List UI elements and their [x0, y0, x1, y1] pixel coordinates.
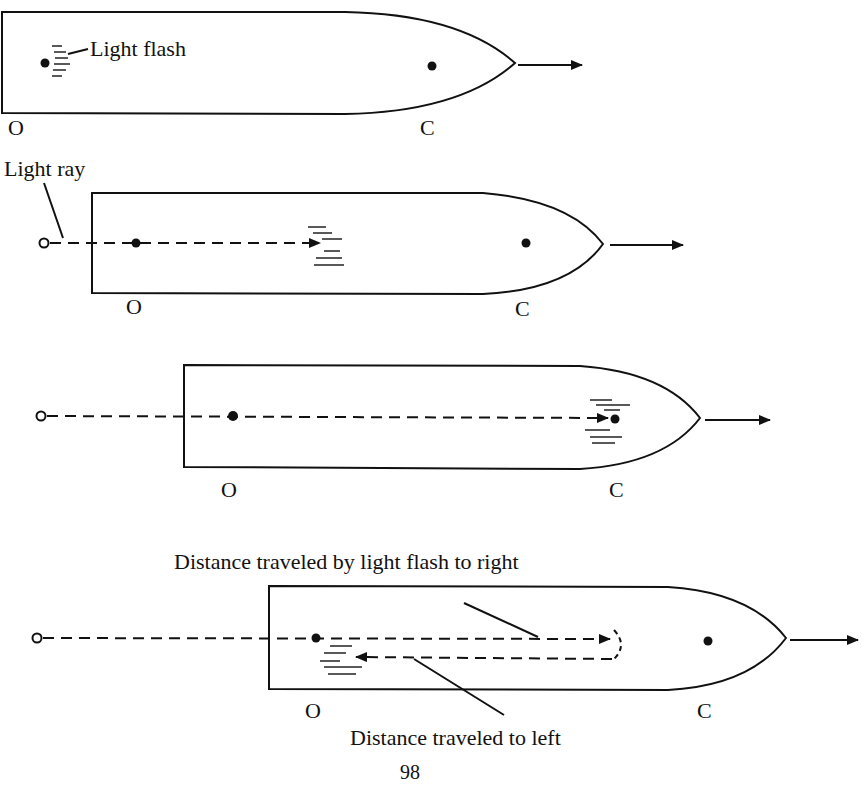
page-number: 98: [400, 761, 420, 783]
light-source-icon: [37, 412, 46, 421]
origin-point: [41, 59, 50, 68]
panel-2: Light ray O C: [4, 156, 683, 321]
center-point: [522, 239, 531, 248]
center-point: [704, 637, 713, 646]
label-O: O: [8, 115, 24, 140]
light-source-icon: [33, 634, 42, 643]
panel-1: Light flash O C: [2, 12, 582, 140]
light-flash-label: Light flash: [90, 36, 186, 61]
center-point: [428, 62, 437, 71]
light-source-icon: [40, 239, 49, 248]
label-C: C: [515, 296, 530, 321]
origin-point: [132, 239, 141, 248]
label-O: O: [221, 477, 237, 502]
distance-left-label: Distance traveled to left: [350, 725, 561, 750]
label-O: O: [305, 698, 321, 723]
relativity-ship-diagram: Light flash O C Light ray O C: [0, 0, 866, 786]
light-ray-label: Light ray: [4, 156, 85, 181]
label-C: C: [420, 115, 435, 140]
ship-hull: [184, 365, 700, 469]
origin-point: [228, 411, 238, 421]
center-point: [611, 415, 620, 424]
origin-point: [312, 634, 321, 643]
leader-line: [44, 183, 63, 238]
label-O: O: [126, 294, 142, 319]
label-C: C: [609, 477, 624, 502]
distance-right-label: Distance traveled by light flash to righ…: [174, 549, 519, 574]
panel-3: O C: [37, 365, 771, 502]
panel-4: Distance traveled by light flash to righ…: [33, 549, 859, 750]
ship-hull: [2, 12, 515, 114]
label-C: C: [697, 698, 712, 723]
